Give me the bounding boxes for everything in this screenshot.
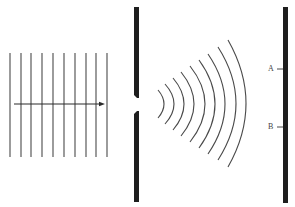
point-label-a: A	[268, 65, 274, 73]
barrier-lower-segment	[134, 111, 139, 202]
barrier-upper-segment	[134, 7, 139, 98]
screen-bar	[283, 7, 288, 203]
point-label-b: B	[268, 123, 273, 131]
detection-screen	[283, 7, 288, 203]
diffraction-diagram	[0, 0, 295, 207]
